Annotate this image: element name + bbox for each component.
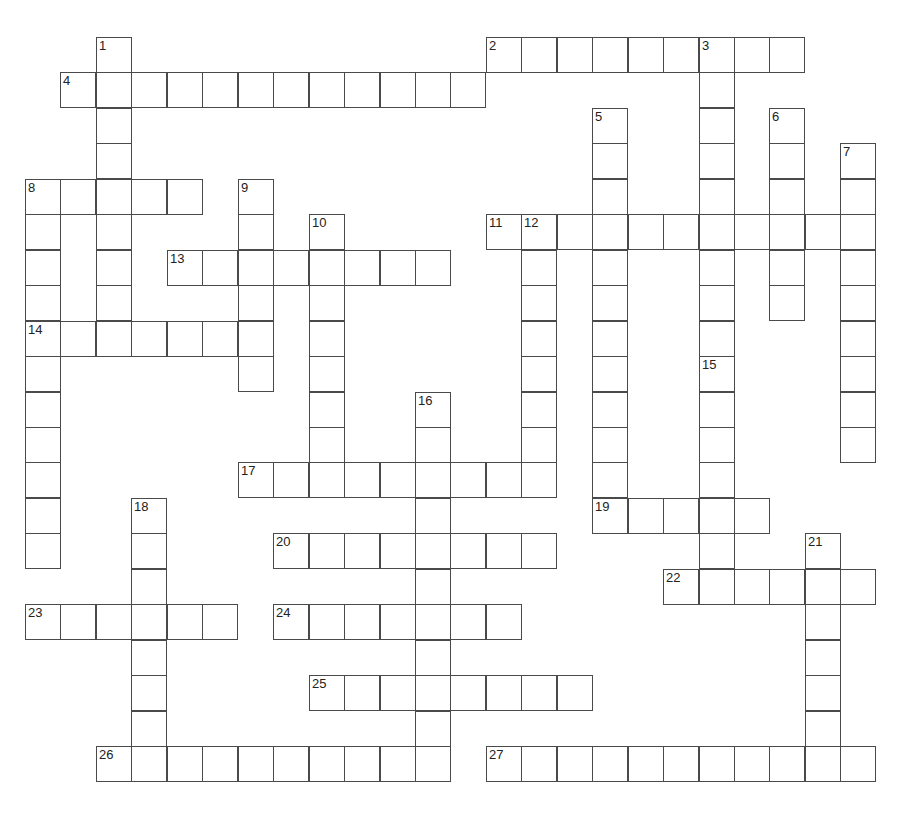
crossword-cell[interactable] (805, 569, 841, 605)
crossword-cell[interactable] (238, 746, 274, 782)
crossword-cell[interactable] (699, 72, 735, 108)
crossword-cell[interactable] (167, 179, 203, 215)
crossword-cell[interactable] (202, 72, 238, 108)
crossword-cell[interactable] (840, 746, 876, 782)
crossword-cell[interactable] (486, 675, 522, 711)
crossword-cell[interactable] (699, 143, 735, 179)
crossword-cell[interactable] (699, 250, 735, 286)
crossword-cell[interactable] (592, 392, 628, 428)
crossword-cell[interactable] (344, 72, 380, 108)
crossword-cell[interactable]: 8 (25, 179, 61, 215)
crossword-cell[interactable] (238, 285, 274, 321)
crossword-cell[interactable] (592, 143, 628, 179)
crossword-cell[interactable]: 5 (592, 108, 628, 144)
crossword-cell[interactable] (131, 321, 167, 357)
crossword-cell[interactable] (202, 746, 238, 782)
crossword-cell[interactable] (131, 675, 167, 711)
crossword-cell[interactable] (699, 179, 735, 215)
crossword-cell[interactable] (592, 462, 628, 498)
crossword-cell[interactable] (840, 321, 876, 357)
crossword-cell[interactable] (415, 498, 451, 534)
crossword-cell[interactable] (309, 250, 345, 286)
crossword-cell[interactable] (699, 427, 735, 463)
crossword-cell[interactable] (131, 640, 167, 676)
crossword-cell[interactable] (734, 569, 770, 605)
crossword-cell[interactable] (415, 427, 451, 463)
crossword-cell[interactable] (344, 675, 380, 711)
crossword-cell[interactable] (521, 37, 557, 73)
crossword-cell[interactable] (273, 250, 309, 286)
crossword-cell[interactable] (663, 37, 699, 73)
crossword-cell[interactable] (344, 604, 380, 640)
crossword-cell[interactable]: 11 (486, 214, 522, 250)
crossword-cell[interactable] (557, 675, 593, 711)
crossword-cell[interactable] (592, 250, 628, 286)
crossword-cell[interactable] (592, 214, 628, 250)
crossword-cell[interactable] (592, 746, 628, 782)
crossword-cell[interactable] (628, 746, 664, 782)
crossword-cell[interactable] (769, 214, 805, 250)
crossword-cell[interactable] (344, 533, 380, 569)
crossword-cell[interactable] (840, 214, 876, 250)
crossword-cell[interactable] (521, 285, 557, 321)
crossword-cell[interactable] (415, 604, 451, 640)
crossword-cell[interactable] (592, 179, 628, 215)
crossword-cell[interactable] (699, 392, 735, 428)
crossword-cell[interactable]: 21 (805, 533, 841, 569)
crossword-cell[interactable] (309, 356, 345, 392)
crossword-cell[interactable]: 25 (309, 675, 345, 711)
crossword-cell[interactable] (699, 533, 735, 569)
crossword-cell[interactable] (380, 72, 416, 108)
crossword-cell[interactable] (734, 37, 770, 73)
crossword-cell[interactable] (521, 533, 557, 569)
crossword-cell[interactable] (592, 427, 628, 463)
crossword-cell[interactable] (592, 321, 628, 357)
crossword-cell[interactable] (238, 250, 274, 286)
crossword-cell[interactable] (415, 72, 451, 108)
crossword-cell[interactable] (96, 214, 132, 250)
crossword-cell[interactable] (60, 321, 96, 357)
crossword-cell[interactable]: 4 (60, 72, 96, 108)
crossword-cell[interactable] (238, 72, 274, 108)
crossword-cell[interactable] (167, 604, 203, 640)
crossword-cell[interactable] (450, 533, 486, 569)
crossword-cell[interactable] (805, 746, 841, 782)
crossword-cell[interactable] (450, 72, 486, 108)
crossword-cell[interactable] (734, 746, 770, 782)
crossword-cell[interactable] (25, 498, 61, 534)
crossword-cell[interactable] (380, 675, 416, 711)
crossword-cell[interactable] (167, 746, 203, 782)
crossword-cell[interactable]: 15 (699, 356, 735, 392)
crossword-cell[interactable] (699, 498, 735, 534)
crossword-cell[interactable]: 20 (273, 533, 309, 569)
crossword-cell[interactable]: 9 (238, 179, 274, 215)
crossword-cell[interactable] (25, 285, 61, 321)
crossword-cell[interactable] (592, 356, 628, 392)
crossword-cell[interactable] (521, 746, 557, 782)
crossword-cell[interactable] (805, 604, 841, 640)
crossword-cell[interactable] (309, 604, 345, 640)
crossword-cell[interactable] (96, 285, 132, 321)
crossword-cell[interactable] (521, 462, 557, 498)
crossword-cell[interactable] (699, 462, 735, 498)
crossword-cell[interactable] (769, 285, 805, 321)
crossword-cell[interactable] (557, 746, 593, 782)
crossword-cell[interactable] (131, 711, 167, 747)
crossword-cell[interactable] (486, 604, 522, 640)
crossword-cell[interactable] (380, 533, 416, 569)
crossword-cell[interactable] (415, 533, 451, 569)
crossword-cell[interactable]: 6 (769, 108, 805, 144)
crossword-cell[interactable] (486, 462, 522, 498)
crossword-cell[interactable] (840, 250, 876, 286)
crossword-cell[interactable] (344, 250, 380, 286)
crossword-cell[interactable] (699, 321, 735, 357)
crossword-cell[interactable] (592, 285, 628, 321)
crossword-cell[interactable] (840, 569, 876, 605)
crossword-cell[interactable] (238, 321, 274, 357)
crossword-cell[interactable] (663, 746, 699, 782)
crossword-cell[interactable] (344, 462, 380, 498)
crossword-cell[interactable] (238, 214, 274, 250)
crossword-cell[interactable] (309, 427, 345, 463)
crossword-cell[interactable] (628, 37, 664, 73)
crossword-cell[interactable] (699, 108, 735, 144)
